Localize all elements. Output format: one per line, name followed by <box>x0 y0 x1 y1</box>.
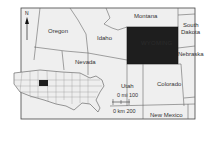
inset-wyoming-highlight <box>39 80 48 86</box>
state-label-oregon: Oregon <box>48 28 68 34</box>
map-graphic <box>0 0 212 143</box>
state-label-colorado: Colorado <box>157 81 181 87</box>
wyoming-location-map: N Oregon Idaho Montana South Dakota Nebr… <box>0 0 212 143</box>
state-label-nevada: Nevada <box>75 59 96 65</box>
state-label-idaho: Idaho <box>97 35 112 41</box>
scale-km-label: 0 km 200 <box>113 109 136 115</box>
state-label-utah: Utah <box>121 83 134 89</box>
scale-miles-label: 0 mi 100 <box>117 93 138 99</box>
state-label-montana: Montana <box>134 13 157 19</box>
highlight-label-wyoming: WYOMING <box>141 40 172 46</box>
north-label: N <box>25 10 29 16</box>
state-label-south-dakota-1: South <box>183 22 199 28</box>
state-label-nebraska: Nebraska <box>178 51 204 57</box>
state-label-new-mexico: New Mexico <box>150 112 183 118</box>
state-label-south-dakota-2: Dakota <box>181 29 200 35</box>
